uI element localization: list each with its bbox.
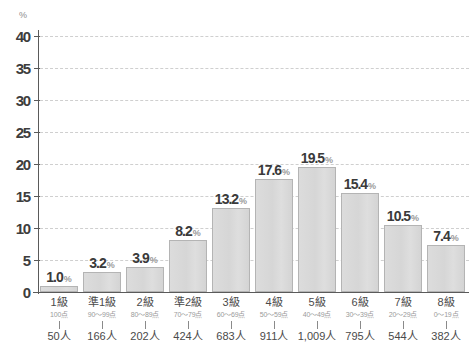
score-range-label: 90〜99点 — [81, 309, 124, 320]
count-label: 795人 — [339, 330, 382, 343]
count-label: 1,009人 — [296, 330, 339, 343]
category-label: 2級 — [124, 296, 167, 309]
count-label: 544人 — [382, 330, 425, 343]
score-range-label: 50〜59点 — [253, 309, 296, 320]
bar[interactable] — [341, 193, 379, 292]
percent-sign: % — [193, 228, 201, 238]
percent-sign: % — [239, 196, 247, 206]
count-label: 683人 — [210, 330, 253, 343]
bar-value-label: 13.2% — [215, 192, 247, 206]
x-axis-label-group: 3級60〜69点683人 — [210, 296, 253, 343]
category-label: 8級 — [425, 296, 468, 309]
bar-group[interactable]: 17.6% — [255, 179, 293, 292]
percent-sign: % — [368, 181, 376, 191]
bar-value-label: 17.6% — [258, 163, 290, 177]
bar-value-label: 19.5% — [301, 151, 333, 165]
bar-group[interactable]: 15.4% — [341, 193, 379, 292]
category-label: 3級 — [210, 296, 253, 309]
score-range-label: 40〜49点 — [296, 309, 339, 320]
bar-group[interactable]: 10.5% — [384, 225, 422, 292]
bar[interactable] — [40, 286, 78, 292]
category-label: 1級 — [38, 296, 81, 309]
bar[interactable] — [126, 267, 164, 292]
percent-sign: % — [325, 155, 333, 165]
bar-chart: % 0510152025303540 1.0%3.2%3.9%8.2%13.2%… — [0, 0, 473, 355]
bar[interactable] — [298, 167, 336, 292]
bar-value-label: 15.4% — [344, 177, 376, 191]
bar[interactable] — [212, 208, 250, 292]
bar-value-number: 15.4 — [344, 176, 367, 192]
percent-sign: % — [411, 213, 419, 223]
bar-value-number: 3.9 — [132, 250, 148, 266]
x-axis-label-group: 1級100点50人 — [38, 296, 81, 343]
label-divider-tick — [59, 321, 60, 329]
x-axis-label-group: 4級50〜59点911人 — [253, 296, 296, 343]
category-label: 4級 — [253, 296, 296, 309]
score-range-label: 30〜39点 — [339, 309, 382, 320]
count-label: 911人 — [253, 330, 296, 343]
bar-value-number: 10.5 — [387, 208, 410, 224]
bar-value-number: 19.5 — [301, 150, 324, 166]
percent-sign: % — [282, 167, 290, 177]
score-range-label: 80〜89点 — [124, 309, 167, 320]
bar-group[interactable]: 7.4% — [427, 245, 465, 292]
count-label: 424人 — [167, 330, 210, 343]
score-range-label: 70〜79点 — [167, 309, 210, 320]
bar-value-label: 7.4% — [433, 229, 458, 243]
label-divider-tick — [274, 321, 275, 329]
x-axis-label-group: 5級40〜49点1,009人 — [296, 296, 339, 343]
bar-value-label: 10.5% — [387, 209, 419, 223]
bar-group[interactable]: 8.2% — [169, 240, 207, 292]
label-divider-tick — [317, 321, 318, 329]
score-range-label: 100点 — [38, 309, 81, 320]
score-range-label: 20〜29点 — [382, 309, 425, 320]
label-divider-tick — [360, 321, 361, 329]
count-label: 382人 — [425, 330, 468, 343]
bar-value-number: 1.0 — [46, 269, 62, 285]
category-label: 準2級 — [167, 296, 210, 309]
label-divider-tick — [403, 321, 404, 329]
count-label: 202人 — [124, 330, 167, 343]
bar-group[interactable]: 3.9% — [126, 267, 164, 292]
bar-value-number: 8.2 — [175, 223, 191, 239]
label-divider-tick — [446, 321, 447, 329]
bar-value-label: 3.2% — [89, 256, 114, 270]
count-label: 166人 — [81, 330, 124, 343]
bar[interactable] — [83, 272, 121, 292]
bar-value-label: 8.2% — [175, 224, 200, 238]
x-axis-label-group: 2級80〜89点202人 — [124, 296, 167, 343]
category-label: 6級 — [339, 296, 382, 309]
bar-group[interactable]: 3.2% — [83, 272, 121, 292]
x-axis-label-group: 準2級70〜79点424人 — [167, 296, 210, 343]
bar-value-label: 3.9% — [132, 251, 157, 265]
bar-group[interactable]: 1.0% — [40, 286, 78, 292]
category-label: 5級 — [296, 296, 339, 309]
bar-group[interactable]: 13.2% — [212, 208, 250, 292]
bar[interactable] — [169, 240, 207, 292]
category-label: 準1級 — [81, 296, 124, 309]
x-axis-label-group: 7級20〜29点544人 — [382, 296, 425, 343]
bar-value-number: 13.2 — [215, 191, 238, 207]
bar[interactable] — [384, 225, 422, 292]
label-divider-tick — [188, 321, 189, 329]
percent-sign: % — [150, 255, 158, 265]
percent-sign: % — [107, 260, 115, 270]
label-divider-tick — [231, 321, 232, 329]
x-axis-label-group: 6級30〜39点795人 — [339, 296, 382, 343]
x-axis-label-group: 準1級90〜99点166人 — [81, 296, 124, 343]
percent-sign: % — [451, 233, 459, 243]
bar-value-number: 17.6 — [258, 162, 281, 178]
percent-sign: % — [64, 274, 72, 284]
category-label: 7級 — [382, 296, 425, 309]
score-range-label: 0〜19点 — [425, 309, 468, 320]
bar-group[interactable]: 19.5% — [298, 167, 336, 292]
label-divider-tick — [102, 321, 103, 329]
label-divider-tick — [145, 321, 146, 329]
bar[interactable] — [255, 179, 293, 292]
bar-value-label: 1.0% — [46, 270, 71, 284]
bar-value-number: 3.2 — [89, 255, 105, 271]
score-range-label: 60〜69点 — [210, 309, 253, 320]
x-axis-label-group: 8級0〜19点382人 — [425, 296, 468, 343]
bar[interactable] — [427, 245, 465, 292]
bar-value-number: 7.4 — [433, 228, 449, 244]
